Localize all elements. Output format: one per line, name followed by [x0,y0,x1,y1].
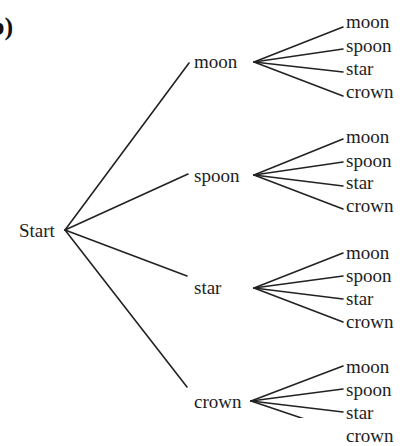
edge-moon-moon [254,27,343,62]
leaf-crown-spoon: spoon [346,380,391,399]
edge-moon-spoon [254,49,343,62]
leaf-moon-moon: moon [346,12,389,31]
leaf-moon-star: star [346,59,373,78]
branch-node-moon: moon [194,52,237,71]
leaf-star-moon: moon [346,243,389,262]
leaf-moon-spoon: spoon [346,36,391,55]
leaf-spoon-star: star [346,173,373,192]
leaf-spoon-moon: moon [346,127,389,146]
branch-node-spoon: spoon [194,166,239,185]
edge-start-spoon [65,174,188,230]
edge-start-moon [65,63,189,230]
leaf-star-crown: crown [346,312,393,331]
edge-crown-star [251,401,343,412]
leaf-crown-star: star [346,403,373,422]
edge-spoon-spoon [254,162,343,175]
leaf-crown-crown: crown [346,426,393,445]
leaf-spoon-spoon: spoon [346,151,391,170]
root-node-start: Start [19,221,55,240]
leaf-star-star: star [346,289,373,308]
branch-node-crown: crown [194,392,241,411]
leaf-moon-crown: crown [346,82,393,101]
leaf-spoon-crown: crown [346,196,393,215]
leaf-star-spoon: spoon [346,266,391,285]
leaf-crown-moon: moon [346,357,389,376]
branch-node-star: star [194,278,221,297]
edge-spoon-moon [254,139,343,175]
edge-crown-crown [251,401,343,418]
